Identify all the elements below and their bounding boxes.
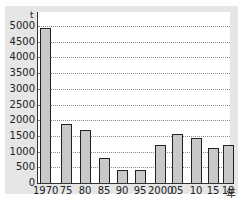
gridline: [38, 105, 230, 106]
bar-80: [80, 130, 91, 184]
y-tick-label: 5000: [3, 21, 35, 31]
bar-05: [172, 134, 183, 184]
bar-90: [117, 170, 128, 184]
bar-75: [61, 124, 72, 184]
x-axis-unit: 年: [226, 185, 236, 200]
y-tick-label: 0: [3, 178, 35, 188]
bar-15: [208, 148, 219, 184]
y-tick-label: 500: [3, 162, 35, 172]
y-tick-label: 4500: [3, 37, 35, 47]
bar-10: [191, 138, 202, 184]
y-tick-label: 1500: [3, 131, 35, 141]
bar-1970: [40, 28, 51, 184]
bar-85: [99, 158, 110, 184]
gridline: [38, 57, 230, 58]
y-tick-label: 2500: [3, 100, 35, 110]
y-tick-label: 3000: [3, 84, 35, 94]
gridline: [38, 26, 230, 27]
gridline: [38, 120, 230, 121]
y-axis-unit: t: [30, 10, 34, 20]
bar-18: [223, 145, 234, 184]
y-tick-label: 4000: [3, 52, 35, 62]
bar-95: [135, 170, 146, 184]
bar-2000: [155, 145, 166, 184]
gridline: [38, 42, 230, 43]
x-axis-line: [37, 183, 230, 184]
gridline: [38, 89, 230, 90]
y-tick-label: 2000: [3, 115, 35, 125]
y-tick-label: 3500: [3, 68, 35, 78]
gridline: [38, 73, 230, 74]
y-axis-line: [37, 12, 38, 184]
y-tick-label: 1000: [3, 147, 35, 157]
